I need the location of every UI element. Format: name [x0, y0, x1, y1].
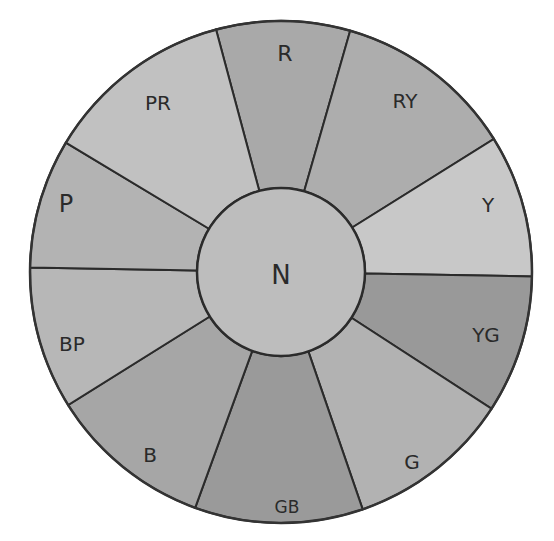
sector-label-p: P	[59, 190, 73, 218]
sector-label-b: B	[143, 443, 157, 467]
sector-label-bp: BP	[59, 332, 85, 356]
sector-label-ry: RY	[393, 89, 419, 113]
sector-label-g: G	[404, 450, 420, 474]
sector-label-pr: PR	[145, 91, 171, 115]
sector-label-y: Y	[481, 193, 495, 217]
sector-label-r: R	[277, 41, 292, 66]
color-wheel-diagram: N RRYYYGGGBBBPPPR	[0, 0, 554, 541]
center-label: N	[271, 260, 290, 290]
sector-label-yg: YG	[471, 323, 500, 347]
sector-label-gb: GB	[275, 497, 300, 517]
